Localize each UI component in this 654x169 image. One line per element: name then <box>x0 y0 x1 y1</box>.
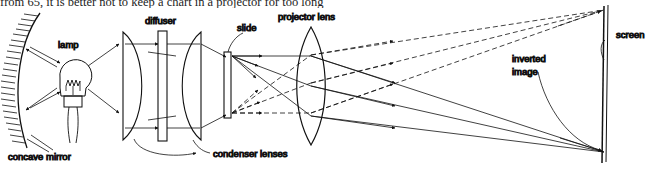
label-lamp: lamp <box>58 39 79 50</box>
label-concave-mirror: concave mirror <box>8 151 71 162</box>
concave-mirror-leader <box>27 135 53 152</box>
label-condenser-lenses: condenser lenses <box>213 148 288 159</box>
concave-mirror <box>1 13 40 148</box>
label-projector-lens: projector lens <box>278 11 335 22</box>
condenser-leader <box>134 139 210 155</box>
diffuser-plate <box>158 31 167 141</box>
condenser-lens-2 <box>182 32 201 140</box>
ray-bundle-dashed <box>232 10 604 113</box>
projector-optics-diagram: concave mirror lamp diffuser condenser l… <box>0 0 654 169</box>
label-diffuser: diffuser <box>145 15 176 26</box>
inverted-image-leader <box>538 72 600 150</box>
label-inverted-image-line2: image <box>512 66 538 77</box>
slide-leader <box>228 33 243 52</box>
label-screen: screen <box>616 29 645 40</box>
lamp-rays <box>26 44 119 113</box>
condenser-lens-1 <box>123 32 142 140</box>
label-slide: slide <box>237 22 257 33</box>
screen-surface <box>602 5 608 163</box>
label-inverted-image-line1: inverted <box>512 53 546 64</box>
ray-bundle-solid <box>232 56 604 152</box>
lamp-bulb <box>60 60 92 143</box>
condenser-rays <box>125 44 226 128</box>
slide-plate <box>224 52 231 118</box>
figure-canvas: from 65, it is better not to keep a char… <box>0 0 654 169</box>
